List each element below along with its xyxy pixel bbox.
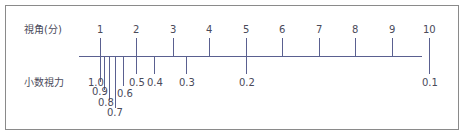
- acuity-tick-0-2: 0.2: [239, 77, 255, 89]
- angle-tick-5: 5: [243, 24, 249, 36]
- acuity-tick-0-4: 0.4: [147, 77, 163, 89]
- acuity-tick-0-6: 0.6: [117, 88, 133, 100]
- acuity-tick-0-1: 0.1: [422, 77, 438, 89]
- angle-tick-7: 7: [316, 24, 322, 36]
- acuity-tick-0-7: 0.7: [107, 107, 123, 119]
- angle-tick-9: 9: [389, 24, 395, 36]
- angle-tick-2: 2: [133, 24, 139, 36]
- angle-tick-3: 3: [170, 24, 176, 36]
- scale-diagram: [0, 0, 464, 138]
- acuity-tick-0-5: 0.5: [129, 77, 145, 89]
- angle-tick-1: 1: [97, 24, 103, 36]
- acuity-tick-0-3: 0.3: [179, 77, 195, 89]
- angle-tick-4: 4: [206, 24, 212, 36]
- angle-tick-6: 6: [279, 24, 285, 36]
- angle-tick-8: 8: [352, 24, 358, 36]
- angle-tick-10: 10: [423, 24, 436, 36]
